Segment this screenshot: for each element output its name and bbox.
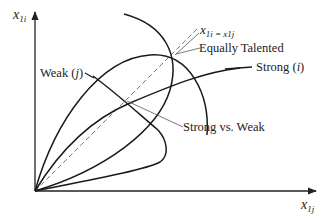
leader-strong [225, 67, 252, 69]
diagram-canvas [0, 0, 333, 219]
weak-label: Weak (j) [40, 67, 83, 80]
strong-label-text: Strong ( [256, 60, 297, 74]
diagonal-label: x1i = x1j [200, 23, 234, 39]
y-axis-label-sub: 1i [19, 14, 26, 24]
diagonal-label-eq: 1i = x [206, 29, 228, 39]
y-axis-label: x1i [13, 8, 26, 24]
leader-diagonal [175, 33, 199, 55]
x-axis-label-sub: 1j [307, 204, 314, 214]
diagonal-label-sub: 1j [227, 29, 234, 39]
leader-strong-vs-weak [127, 101, 183, 127]
equally-talented-label: Equally Talented [199, 42, 284, 55]
weak-label-text: Weak ( [40, 66, 75, 80]
leader-weak [85, 73, 94, 78]
curve-weak-j [35, 76, 166, 191]
strong-vs-weak-label: Strong vs. Weak [183, 121, 265, 134]
strong-label: Strong (i) [256, 61, 304, 74]
x-axis-label: x1j [301, 198, 314, 214]
strong-label-close: ) [300, 60, 304, 74]
weak-label-close: ) [79, 66, 83, 80]
